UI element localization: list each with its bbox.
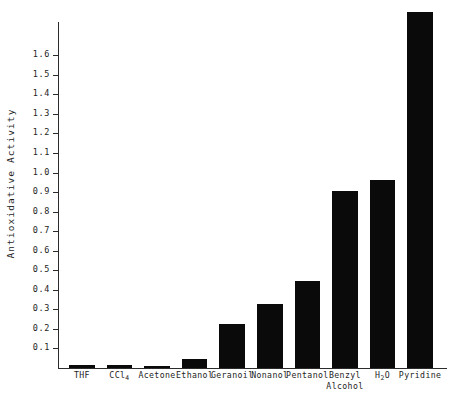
bar[interactable] [295,281,321,368]
bar[interactable] [69,365,95,368]
y-axis-tick: 1.1 [53,153,58,154]
y-axis-tick: 0.9 [53,192,58,193]
y-axis-tick: 0.5 [53,270,58,271]
y-axis-tick: 1.4 [53,94,58,95]
bar-chart-figure: Antioxidative Activity 0.10.20.30.40.50.… [0,0,456,405]
y-axis-tick-label: 1.4 [33,88,50,98]
y-axis-tick: 0.2 [53,329,58,330]
bar[interactable] [257,304,283,369]
y-axis-tick: 0.1 [53,348,58,349]
y-axis-tick: 1.2 [53,133,58,134]
y-axis-tick-label: 0.4 [33,284,50,294]
y-axis-tick: 0.4 [53,290,58,291]
y-axis-tick: 1.3 [53,114,58,115]
y-axis-tick-label: 1.1 [33,147,50,157]
y-axis-tick: 0.8 [53,212,58,213]
bar[interactable] [144,366,170,369]
y-axis-line [58,22,59,368]
bar[interactable] [107,365,133,368]
x-axis-tick-label: Pyridine [380,370,456,381]
y-axis-tick-label: 0.8 [33,206,50,216]
y-axis-tick-label: 1.0 [33,167,50,177]
bar[interactable] [219,324,245,368]
y-axis-tick-label: 0.2 [33,323,50,333]
y-axis-tick: 1.5 [53,75,58,76]
y-axis-tick-label: 0.9 [33,186,50,196]
y-axis-tick-label: 1.5 [33,69,50,79]
y-axis-tick-label: 0.6 [33,245,50,255]
y-axis-title-container: Antioxidative Activity [0,0,22,405]
y-axis-tick: 0.3 [53,309,58,310]
plot-area: 0.10.20.30.40.50.60.70.80.91.01.11.21.31… [58,22,447,368]
y-axis-tick-label: 0.5 [33,264,50,274]
bar[interactable] [407,12,433,368]
bar[interactable] [182,359,208,368]
y-axis-tick-label: 1.6 [33,49,50,59]
y-axis-tick-label: 1.3 [33,108,50,118]
y-axis-tick: 0.7 [53,231,58,232]
x-axis-tick-labels: THFCCl4AcetoneEthanolGeranoilNonanolPent… [58,370,447,404]
bar[interactable] [332,191,358,368]
y-axis-tick-label: 0.7 [33,225,50,235]
y-axis-tick: 0.6 [53,251,58,252]
y-axis-title: Antioxidative Activity [5,84,16,284]
y-axis-tick: 1.0 [53,173,58,174]
y-axis-tick-label: 1.2 [33,127,50,137]
y-axis-tick-label: 0.3 [33,303,50,313]
bar[interactable] [370,180,396,368]
y-axis-tick: 1.6 [53,55,58,56]
y-axis-tick-label: 0.1 [33,342,50,352]
x-axis-line [58,368,447,369]
